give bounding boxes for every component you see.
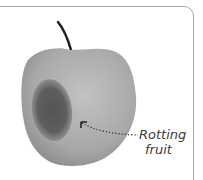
annotation-label: Rotting fruit (139, 127, 186, 157)
annotation-line-1: Rotting (139, 127, 186, 142)
apple-stem (58, 22, 71, 50)
annotation-line-2: fruit (139, 142, 186, 157)
